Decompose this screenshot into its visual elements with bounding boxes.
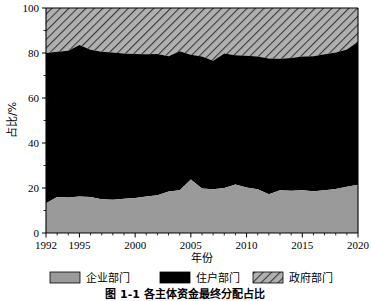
- x-tick-label: 2020: [347, 239, 370, 251]
- x-tick-label: 2005: [180, 239, 203, 251]
- plot-area: [46, 8, 358, 233]
- x-tick-label: 1995: [68, 239, 91, 251]
- legend-label: 住户部门: [196, 271, 240, 285]
- legend-item-1[interactable]: 企业部门: [50, 271, 130, 285]
- legend-swatch: [50, 272, 80, 283]
- y-tick-label: 40: [28, 137, 40, 149]
- x-tick-label: 2015: [291, 239, 314, 251]
- area-household-sector: [46, 42, 358, 204]
- y-axis-title: 占比/%: [5, 102, 19, 138]
- figure-container: 020406080100 199219952000200520102015202…: [0, 0, 371, 301]
- y-tick-label: 0: [34, 227, 40, 239]
- x-axis-title: 年份: [191, 251, 213, 265]
- legend-item-3[interactable]: 政府部门: [253, 271, 333, 285]
- y-tick-label: 60: [28, 92, 40, 104]
- y-tick-label: 80: [28, 47, 40, 59]
- x-tick-label: 2010: [236, 239, 259, 251]
- legend-swatch: [160, 272, 190, 283]
- stacked-area-chart: 020406080100 199219952000200520102015202…: [0, 0, 371, 301]
- figure-caption: 图 1-1 各主体资金最终分配占比: [105, 287, 265, 301]
- legend-label: 政府部门: [289, 271, 333, 285]
- legend-swatch: [253, 272, 283, 283]
- y-tick-label: 100: [23, 2, 40, 14]
- x-tick-label: 1992: [35, 239, 57, 251]
- legend-item-2[interactable]: 住户部门: [160, 271, 240, 285]
- x-tick-label: 2000: [124, 239, 147, 251]
- legend-label: 企业部门: [86, 271, 130, 285]
- y-tick-label: 20: [28, 182, 40, 194]
